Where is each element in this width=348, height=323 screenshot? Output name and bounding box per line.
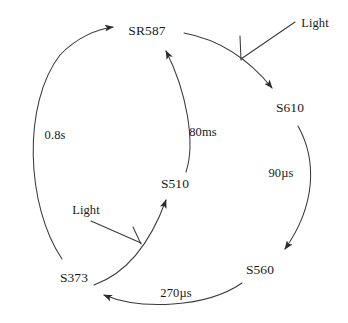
edge-label-80ms: 80ms: [189, 126, 217, 139]
node-label-s510: S510: [161, 177, 189, 191]
edge-s610-s560: [285, 126, 311, 249]
light-top-pointer-line: [241, 22, 295, 59]
node-label-s610: S610: [276, 101, 304, 115]
edge-sr587-s610: [184, 33, 272, 88]
node-label-s373: S373: [60, 271, 88, 285]
light-top-tick: [240, 36, 241, 60]
edge-s373-s510: [94, 200, 166, 285]
edge-label-90us: 90µs: [269, 167, 294, 180]
edge-label-270us: 270µs: [160, 287, 191, 300]
light-bottom-pointer-line: [91, 221, 141, 243]
light-label-bottom: Light: [72, 204, 100, 217]
photocycle-diagram: SR587 S610 S560 S373 S510 0.8s 80ms 90µs…: [0, 0, 348, 323]
node-label-s560: S560: [246, 263, 274, 277]
edge-label-0-8s: 0.8s: [45, 129, 66, 142]
node-label-sr587: SR587: [128, 24, 165, 38]
edge-s373-sr587: [33, 27, 113, 259]
light-label-top: Light: [301, 17, 329, 30]
diagram-canvas: [0, 0, 348, 323]
edge-s510-sr587: [166, 51, 190, 172]
